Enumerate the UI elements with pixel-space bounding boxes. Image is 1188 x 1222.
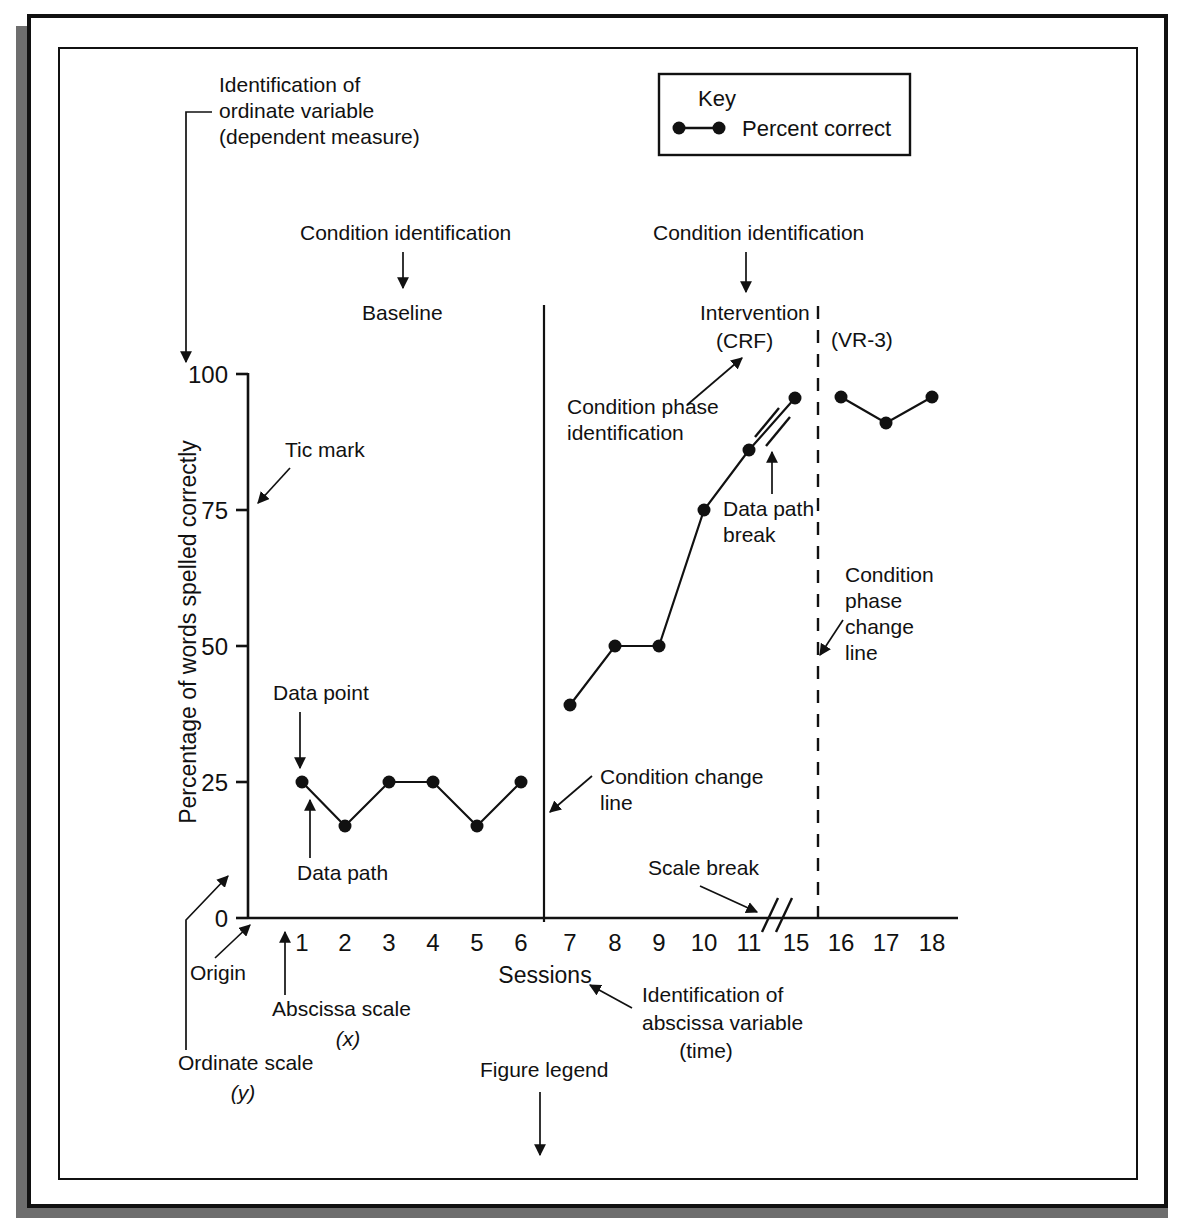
annotation-line: line xyxy=(845,641,878,664)
annotation-line: (y) xyxy=(231,1081,256,1104)
data-point xyxy=(339,820,352,833)
key-box-border xyxy=(659,74,910,155)
key-series-label: Percent correct xyxy=(742,116,891,141)
annotation-line: (dependent measure) xyxy=(219,125,420,148)
data-point xyxy=(427,776,440,789)
annotation-condition-identification-right: Condition identification Intervention (C… xyxy=(653,221,893,352)
annotation-condition-phase-identification: Condition phase identification xyxy=(567,358,742,444)
annotation-line: break xyxy=(723,523,776,546)
data-point xyxy=(698,504,711,517)
data-point xyxy=(515,776,528,789)
data-path-baseline xyxy=(302,782,521,826)
annotation-line: Condition xyxy=(845,563,934,586)
x-tick-label-18: 18 xyxy=(919,929,946,956)
annotation-line: Identification of xyxy=(642,983,783,1006)
leader-arrow xyxy=(590,985,632,1008)
data-point xyxy=(743,444,756,457)
figure-root: 100 75 50 25 0 1 2 3 4 5 6 7 8 9 10 11 1… xyxy=(0,0,1188,1222)
key-box: Key Percent correct xyxy=(659,74,910,155)
leader-arrow xyxy=(186,112,212,362)
x-tick-label-3: 3 xyxy=(382,929,395,956)
x-tick-label-8: 8 xyxy=(608,929,621,956)
x-tick-label-7: 7 xyxy=(563,929,576,956)
annotation-line: (time) xyxy=(679,1039,733,1062)
annotation-line: Condition identification xyxy=(653,221,864,244)
annotation-condition-identification-left: Condition identification Baseline xyxy=(300,221,511,324)
y-tick-label-50: 50 xyxy=(201,633,228,660)
annotation-data-path: Data path xyxy=(297,800,388,884)
data-point xyxy=(653,640,666,653)
x-tick-label-10: 10 xyxy=(691,929,718,956)
data-point xyxy=(383,776,396,789)
annotation-origin: Origin xyxy=(190,925,250,984)
annotation-line: Data path xyxy=(297,861,388,884)
chart-canvas: 100 75 50 25 0 1 2 3 4 5 6 7 8 9 10 11 1… xyxy=(0,0,1188,1222)
leader-arrow xyxy=(820,620,843,655)
data-point xyxy=(835,391,848,404)
key-marker-left xyxy=(673,122,686,135)
annotation-line: Condition phase xyxy=(567,395,719,418)
data-point xyxy=(471,820,484,833)
annotation-identification-abscissa: Identification of abscissa variable (tim… xyxy=(590,983,803,1062)
data-path-intervention xyxy=(570,398,795,705)
annotation-line: ordinate variable xyxy=(219,99,374,122)
annotation-line: Abscissa scale xyxy=(272,997,411,1020)
x-axis-title: Sessions xyxy=(498,962,591,988)
x-tick-label-5: 5 xyxy=(470,929,483,956)
x-tick-label-16: 16 xyxy=(828,929,855,956)
phase-label-intervention-schedule: (CRF) xyxy=(716,329,773,352)
y-axis-title: Percentage of words spelled correctly xyxy=(175,440,201,824)
annotation-line: change xyxy=(845,615,914,638)
x-tick-labels: 1 2 3 4 5 6 7 8 9 10 11 15 16 17 18 xyxy=(295,929,945,956)
annotation-line: Identification of xyxy=(219,73,360,96)
data-point xyxy=(564,699,577,712)
annotation-line: line xyxy=(600,791,633,814)
annotation-line: Condition identification xyxy=(300,221,511,244)
leader-arrow xyxy=(258,468,290,503)
annotation-ordinate-scale: Ordinate scale (y) xyxy=(178,876,313,1104)
x-tick-label-2: 2 xyxy=(338,929,351,956)
x-tick-label-9: 9 xyxy=(652,929,665,956)
x-tick-label-17: 17 xyxy=(873,929,900,956)
annotation-line: (x) xyxy=(336,1027,361,1050)
data-point xyxy=(880,417,893,430)
annotation-line: Figure legend xyxy=(480,1058,608,1081)
annotation-line: Scale break xyxy=(648,856,759,879)
data-point xyxy=(296,776,309,789)
x-tick-label-4: 4 xyxy=(426,929,439,956)
annotation-tic-mark: Tic mark xyxy=(258,438,365,503)
data-point xyxy=(609,640,622,653)
y-tick-label-0: 0 xyxy=(215,905,228,932)
phase-label-intervention: Intervention xyxy=(700,301,810,324)
leader-arrow xyxy=(700,886,757,912)
x-tick-label-6: 6 xyxy=(514,929,527,956)
x-tick-label-15: 15 xyxy=(783,929,810,956)
x-tick-label-11: 11 xyxy=(737,929,762,956)
y-tick-label-100: 100 xyxy=(188,361,228,388)
y-tick-label-75: 75 xyxy=(201,497,228,524)
key-title: Key xyxy=(698,86,736,111)
key-marker-right xyxy=(713,122,726,135)
annotation-data-point: Data point xyxy=(273,681,369,768)
annotation-scale-break: Scale break xyxy=(648,856,759,912)
leader-arrow xyxy=(550,776,592,812)
annotation-condition-change-line: Condition change line xyxy=(550,765,763,814)
annotation-line: Tic mark xyxy=(285,438,365,461)
annotation-line: Origin xyxy=(190,961,246,984)
annotation-line: Data path xyxy=(723,497,814,520)
annotation-line: identification xyxy=(567,421,684,444)
annotation-line: abscissa variable xyxy=(642,1011,803,1034)
phase-label-vr3: (VR-3) xyxy=(831,328,893,351)
annotation-line: Ordinate scale xyxy=(178,1051,313,1074)
y-tick-label-25: 25 xyxy=(201,769,228,796)
annotation-figure-legend: Figure legend xyxy=(480,1058,608,1155)
annotation-line: Data point xyxy=(273,681,369,704)
x-axis-scale-break-marks xyxy=(762,898,792,932)
x-tick-label-1: 1 xyxy=(295,929,308,956)
annotation-line: Condition change xyxy=(600,765,763,788)
phase-label-baseline: Baseline xyxy=(362,301,443,324)
data-point xyxy=(789,392,802,405)
annotation-condition-phase-change-line: Condition phase change line xyxy=(820,563,934,664)
data-path-break-marks xyxy=(755,408,790,446)
annotation-line: phase xyxy=(845,589,902,612)
